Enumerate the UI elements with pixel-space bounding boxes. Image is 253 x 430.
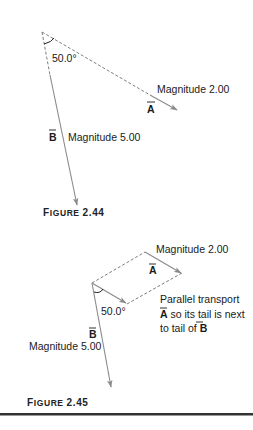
angle-arc xyxy=(94,289,103,293)
magnitude-b-label: Magnitude 5.00 xyxy=(68,131,141,143)
page-divider-rule xyxy=(0,413,253,416)
vector-a-symbol: A xyxy=(147,102,155,115)
angle-label: 50.0° xyxy=(101,305,126,317)
parallel-transport-note: Parallel transport A so its tail is next… xyxy=(160,293,245,334)
angle-arc xyxy=(44,38,54,44)
vector-b-symbol: B xyxy=(49,130,57,143)
svg-text:to tail of B: to tail of B xyxy=(160,322,208,334)
svg-text:A: A xyxy=(149,264,157,276)
angle-label: 50.0° xyxy=(52,52,77,64)
vector-a-symbol: A xyxy=(149,264,157,276)
svg-text:B: B xyxy=(49,131,57,143)
magnitude-a-label: Magnitude 2.00 xyxy=(156,243,229,255)
vector-diagram: 50.0° Magnitude 2.00 A B Magnitude 5.00 … xyxy=(0,0,253,430)
figure-caption: FIGURE 2.45 xyxy=(27,397,88,408)
svg-text:A so its tail is next: A so its tail is next xyxy=(160,308,245,320)
magnitude-a-label: Magnitude 2.00 xyxy=(157,83,230,95)
svg-text:A: A xyxy=(147,103,155,115)
dashed-side-top-left xyxy=(92,252,145,283)
figure-2-45: Magnitude 2.00 A 50.0° Parallel transpor… xyxy=(27,243,245,408)
figure-caption: FIGURE 2.44 xyxy=(43,207,104,218)
svg-text:Parallel transport: Parallel transport xyxy=(160,293,239,305)
svg-text:B: B xyxy=(89,328,97,340)
vector-b-symbol: B xyxy=(89,328,97,340)
figure-2-44: 50.0° Magnitude 2.00 A B Magnitude 5.00 … xyxy=(42,32,230,218)
magnitude-b-label: Magnitude 5.00 xyxy=(29,340,102,352)
dashed-line-b xyxy=(42,32,50,75)
